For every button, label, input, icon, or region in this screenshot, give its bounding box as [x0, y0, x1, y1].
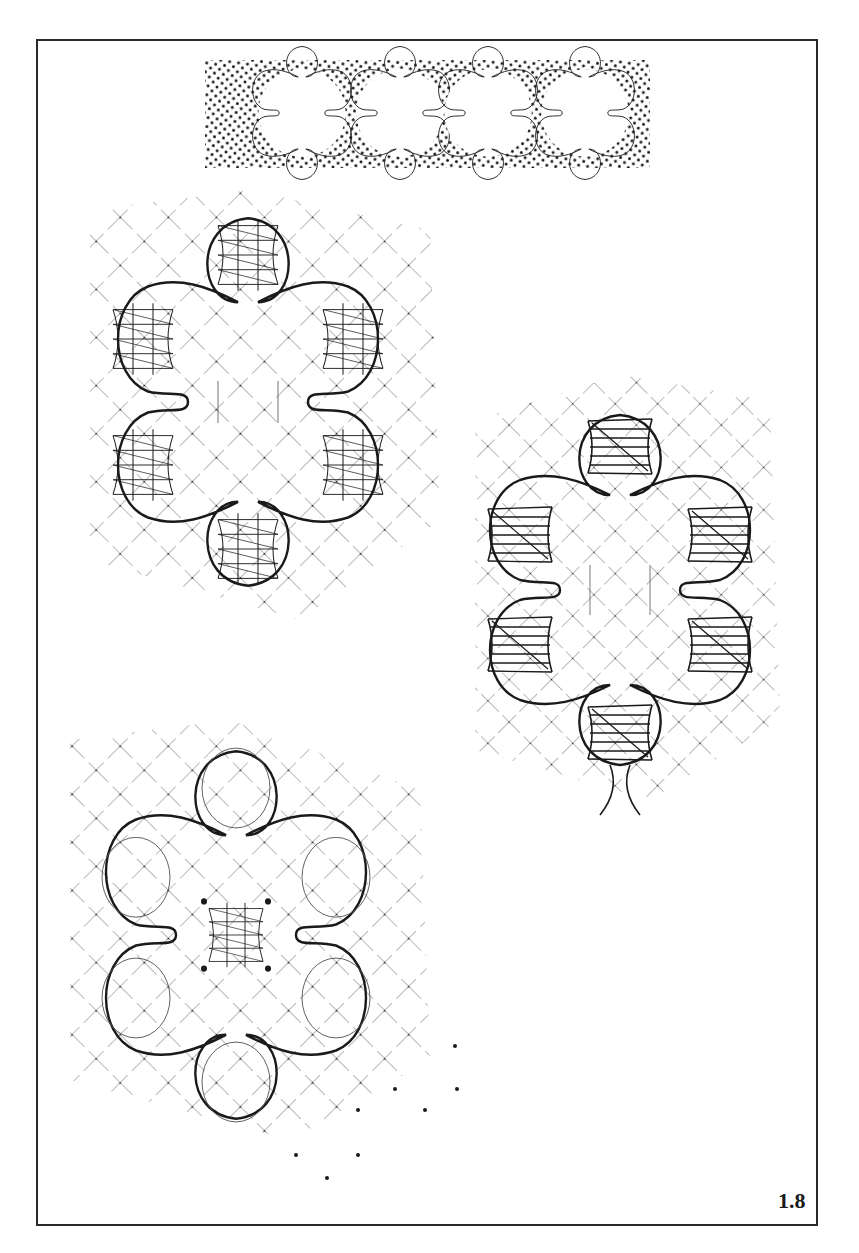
header-strip: [205, 46, 650, 179]
diagram-tally-petals: [470, 375, 790, 815]
lace-illustration: [0, 0, 859, 1253]
figure-label: 1.8: [778, 1188, 806, 1214]
diagram-cloth-stitch-center: [60, 720, 460, 1180]
diagram-cloth-stitch-petals: [60, 190, 460, 630]
